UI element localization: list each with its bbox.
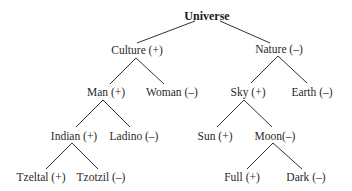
node-moon: Moon(–) (255, 130, 296, 142)
node-indian: Indian (+) (51, 130, 97, 142)
node-man: Man (+) (87, 86, 125, 98)
edge-universe-nature (220, 21, 270, 43)
node-universe: Universe (184, 10, 229, 22)
node-full: Full (+) (224, 171, 260, 183)
node-nature: Nature (–) (255, 43, 303, 55)
node-ladino: Ladino (–) (110, 130, 159, 142)
edge-culture-man (110, 58, 136, 84)
edge-indian-tzeltal (46, 143, 72, 169)
edge-culture-woman (136, 58, 164, 84)
node-tzeltal: Tzeltal (+) (17, 171, 66, 183)
edge-nature-earth (278, 56, 307, 83)
node-earth: Earth (–) (291, 86, 332, 98)
node-culture: Culture (+) (111, 44, 163, 56)
node-sky: Sky (+) (231, 86, 266, 98)
edge-man-ladino (103, 100, 130, 127)
edge-universe-culture (137, 21, 195, 43)
node-sun: Sun (+) (198, 130, 233, 142)
node-dark: Dark (–) (286, 171, 325, 183)
node-tzotzil: Tzotzil (–) (77, 171, 126, 183)
edge-indian-tzotzil (72, 143, 98, 169)
edge-sky-sun (217, 100, 244, 127)
edge-moon-dark (273, 143, 302, 169)
classification-tree: UniverseCulture (+)Nature (–)Man (+)Woma… (0, 0, 352, 191)
edge-nature-sky (251, 56, 278, 83)
edge-man-indian (76, 100, 103, 127)
node-woman: Woman (–) (146, 86, 198, 98)
edge-moon-full (247, 143, 273, 169)
edge-sky-moon (244, 100, 272, 127)
